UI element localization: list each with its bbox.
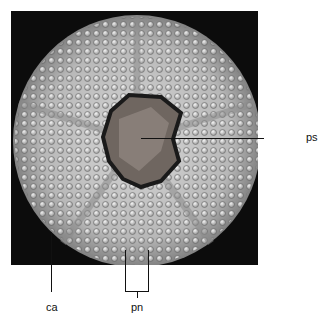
ca-leader-line xyxy=(51,232,52,292)
pn-bracket-left xyxy=(125,250,126,292)
pn-bracket-stem xyxy=(137,291,138,298)
label-pn: pn xyxy=(131,302,143,313)
label-ps: ps xyxy=(306,132,318,143)
ps-leader-line xyxy=(141,138,264,139)
label-ca: ca xyxy=(46,302,58,313)
pn-bracket-right xyxy=(148,250,149,292)
